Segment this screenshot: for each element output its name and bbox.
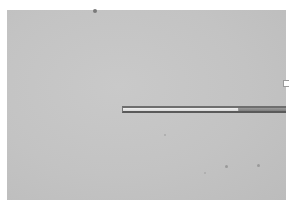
capillary-dark-segment [238, 108, 286, 111]
debris-speck [257, 164, 260, 167]
debris-speck [164, 134, 166, 136]
debris-speck [93, 9, 97, 13]
debris-speck [225, 165, 228, 168]
glass-capillary-rod [122, 106, 286, 113]
micrograph-photo: Grayscale micrograph showing a thin glas… [7, 10, 286, 200]
edge-notch [283, 80, 289, 87]
debris-speck [204, 172, 206, 174]
